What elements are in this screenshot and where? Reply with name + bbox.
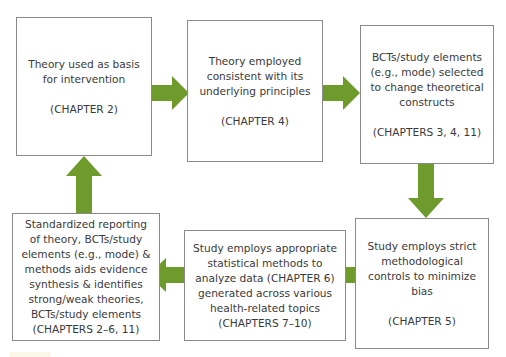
arrow-up-1 — [66, 156, 102, 214]
node-chapter: (CHAPTERS 2–6, 11) — [33, 322, 140, 337]
background-tint — [10, 352, 50, 357]
node-text: Theory employed consistent with its unde… — [194, 54, 316, 99]
node-text: Study employs appropriate statistical me… — [191, 241, 339, 331]
node-text: Standardized reporting of theory, BCTs/s… — [19, 217, 153, 322]
node-standardized-reporting: Standardized reporting of theory, BCTs/s… — [12, 213, 160, 341]
arrow-right-1 — [150, 76, 190, 110]
node-statistical-methods: Study employs appropriate statistical me… — [184, 230, 346, 341]
node-bcts-selected: BCTs/study elements (e.g., mode) selecte… — [360, 25, 494, 164]
node-text: Study employs strict methodological cont… — [362, 239, 482, 299]
node-chapter: (CHAPTERS 3, 4, 11) — [373, 125, 481, 140]
arrow-right-2 — [321, 76, 361, 110]
node-chapter: (CHAPTER 4) — [221, 114, 289, 129]
node-text: BCTs/study elements (e.g., mode) selecte… — [367, 50, 487, 110]
node-theory-consistent: Theory employed consistent with its unde… — [187, 20, 323, 162]
node-theory-basis: Theory used as basis for intervention (C… — [16, 17, 152, 156]
arrow-down-1 — [408, 162, 444, 218]
node-text: Theory used as basis for intervention — [23, 57, 145, 87]
node-chapter: (CHAPTER 5) — [388, 314, 456, 329]
node-chapter: (CHAPTER 2) — [50, 102, 118, 117]
node-methodological-controls: Study employs strict methodological cont… — [355, 218, 489, 349]
